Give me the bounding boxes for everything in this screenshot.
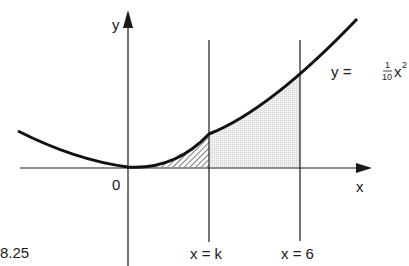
label-x-equals-k: x = k bbox=[190, 245, 223, 262]
equation-var: x bbox=[394, 63, 402, 80]
label-x-equals-6: x = 6 bbox=[281, 245, 314, 262]
parabola-curve bbox=[18, 19, 357, 167]
hatched-region bbox=[150, 134, 209, 167]
equation-exponent: 2 bbox=[402, 60, 407, 70]
x-axis-arrow-icon bbox=[356, 163, 372, 173]
diagram-canvas: y x 0 y = 1 10 x 2 8.25 x = k x = 6 bbox=[0, 0, 409, 266]
equation-lhs: y = bbox=[331, 63, 352, 80]
x-axis-label: x bbox=[356, 178, 364, 195]
y-axis-arrow-icon bbox=[123, 10, 133, 28]
y-axis-label: y bbox=[112, 16, 120, 33]
dotted-region bbox=[209, 74, 300, 167]
origin-label: 0 bbox=[112, 176, 120, 193]
equation-coef-den: 10 bbox=[382, 72, 392, 82]
figure-number: 8.25 bbox=[0, 244, 29, 261]
equation-coef-num: 1 bbox=[385, 60, 390, 70]
